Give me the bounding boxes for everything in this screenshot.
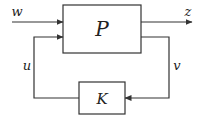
- signal-z-label: z: [184, 4, 192, 19]
- plant-block-p: P: [63, 5, 141, 53]
- controller-block-k: K: [79, 82, 125, 114]
- signal-w-label: w: [11, 4, 22, 19]
- block-diagram: P K w z u v: [0, 0, 202, 119]
- signal-u-label: u: [23, 58, 31, 73]
- signal-u: u: [23, 37, 79, 98]
- signal-v-label: v: [173, 58, 181, 73]
- controller-label: K: [95, 90, 108, 108]
- plant-label: P: [94, 17, 109, 41]
- signal-v: v: [125, 37, 181, 98]
- signal-w: w: [11, 4, 63, 22]
- signal-z: z: [141, 4, 192, 22]
